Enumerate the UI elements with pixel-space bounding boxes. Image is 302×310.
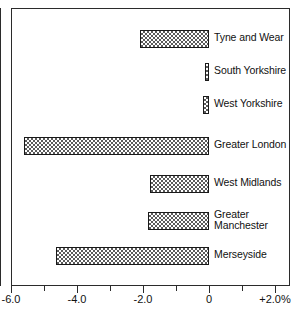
category-label-tyne-and-wear: Tyne and Wear — [214, 32, 284, 44]
x-tick-label-neg4: -4.0 — [68, 293, 87, 306]
x-axis-tick — [11, 286, 12, 293]
category-label-greater-manchester: Greater Manchester — [214, 209, 268, 232]
category-label-greater-london: Greater London — [214, 139, 286, 151]
x-tick-label-pos2: +2.0% — [259, 293, 291, 306]
category-label-south-yorkshire: South Yorkshire — [214, 65, 286, 77]
x-axis-tick — [143, 286, 144, 293]
x-axis-tick — [77, 286, 78, 293]
x-tick-label-zero: 0 — [206, 293, 212, 306]
x-tick-label-neg2: -2.0 — [134, 293, 153, 306]
x-axis-tick — [275, 286, 276, 293]
x-tick-label-neg6: -6.0 — [2, 293, 21, 306]
bar-chart: Tyne and Wear South Yorkshire West Yorks… — [0, 0, 302, 310]
x-axis-tick — [242, 286, 243, 291]
x-axis-tick — [176, 286, 177, 291]
category-label-merseyside: Merseyside — [214, 249, 267, 261]
x-axis-tick — [44, 286, 45, 291]
x-axis-tick — [110, 286, 111, 291]
category-label-west-yorkshire: West Yorkshire — [214, 98, 282, 110]
category-label-west-midlands: West Midlands — [214, 177, 281, 189]
zero-axis-line — [0, 8, 1, 286]
x-axis-tick — [209, 286, 210, 293]
